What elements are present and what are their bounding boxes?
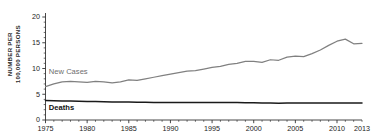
series-line-new-cases [46,39,363,86]
new-cases-label: New Cases [49,67,88,76]
deaths-label: Deaths [49,103,74,112]
line-chart: NUMBER PER 100,000 PERSONS 05101520 1975… [0,0,372,140]
data-series [46,39,363,103]
series-line-deaths [46,100,363,103]
axes [42,13,362,123]
